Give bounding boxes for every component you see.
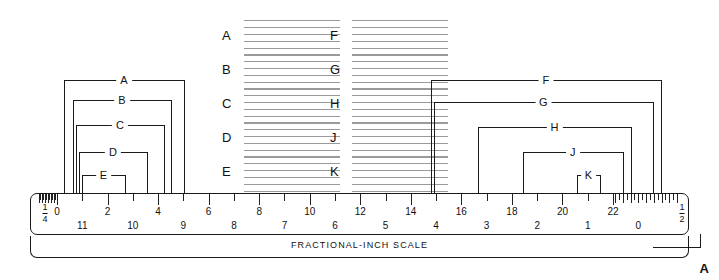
dimension-right-extension-right: [623, 152, 624, 193]
answer-left-letter-b: B: [222, 62, 231, 77]
dimension-right-extension-left: [577, 175, 578, 193]
dimension-left-extension-right: [125, 175, 126, 193]
ruler-tick-top: [512, 194, 513, 205]
answer-right-block: F: [330, 20, 450, 50]
dimension-right-extension-left: [434, 102, 435, 193]
ruler-number-top: 4: [155, 206, 161, 217]
figure-marker: A: [700, 261, 709, 276]
ruler-tick-fine: [623, 194, 624, 203]
ruler-number-bottom: 11: [77, 220, 87, 231]
ruler-number-bottom: 4: [433, 220, 439, 231]
answer-left-writing-lines[interactable]: [244, 156, 340, 198]
dimension-left-extension-left: [76, 125, 77, 193]
ruler-end-fraction-right: 12: [679, 203, 684, 224]
writing-line[interactable]: [244, 163, 340, 164]
ruler-tick-bottom: [588, 194, 589, 201]
writing-line[interactable]: [352, 68, 448, 69]
writing-line[interactable]: [352, 34, 448, 35]
writing-line[interactable]: [352, 75, 448, 76]
answer-left-block: B: [222, 54, 342, 84]
ruler-number-bottom: 9: [181, 220, 187, 231]
ruler-tick-fine: [654, 194, 655, 203]
dimension-left-label-b: B: [114, 95, 130, 105]
ruler-tick-top: [158, 194, 159, 205]
dimension-right-extension-right: [653, 102, 654, 193]
writing-line[interactable]: [244, 143, 340, 144]
answer-left-block: E: [222, 156, 342, 186]
ruler-tick-fine: [658, 194, 659, 200]
writing-line[interactable]: [244, 41, 340, 42]
writing-line[interactable]: [352, 61, 448, 62]
dimension-right-extension-right: [631, 127, 632, 193]
ruler-number-top: 18: [506, 206, 517, 217]
writing-line[interactable]: [244, 116, 340, 117]
ruler-tick-fine: [55, 194, 56, 200]
writing-line[interactable]: [244, 34, 340, 35]
answer-right-block: H: [330, 88, 450, 118]
writing-line[interactable]: [244, 102, 340, 103]
ruler-number-top: 20: [557, 206, 568, 217]
ruler-tick-fine: [646, 194, 647, 203]
dimension-right-label-h: H: [546, 122, 562, 132]
ruler-number-bottom: 1: [585, 220, 591, 231]
corner-rule-vertical: [700, 234, 701, 248]
ruler-title: FRACTIONAL-INCH SCALE: [31, 240, 688, 250]
writing-line[interactable]: [244, 156, 340, 157]
answer-left-block: C: [222, 88, 342, 118]
ruler-tick-fine: [615, 194, 616, 203]
ruler-tick-fine: [665, 194, 666, 200]
ruler-tick-bottom: [234, 194, 235, 201]
ruler-tick-bottom: [335, 194, 336, 201]
writing-line[interactable]: [244, 61, 340, 62]
corner-rule-horizontal: [653, 247, 701, 248]
writing-line[interactable]: [352, 20, 448, 21]
writing-line[interactable]: [244, 75, 340, 76]
writing-line[interactable]: [244, 27, 340, 28]
ruler-tick-top: [209, 194, 210, 205]
ruler-tick-fine: [677, 194, 678, 203]
writing-line[interactable]: [352, 95, 448, 96]
writing-line[interactable]: [352, 27, 448, 28]
writing-line[interactable]: [244, 68, 340, 69]
writing-line[interactable]: [244, 54, 340, 55]
ruler-number-bottom: 0: [635, 220, 641, 231]
answer-left-block: D: [222, 122, 342, 152]
writing-line[interactable]: [244, 95, 340, 96]
dimension-left-label-a: A: [116, 75, 132, 85]
dimension-left-extension-left: [82, 175, 83, 193]
answer-right-letter-g: G: [330, 62, 340, 77]
writing-line[interactable]: [244, 136, 340, 137]
ruler-number-bottom: 5: [383, 220, 389, 231]
dimension-left-extension-right: [171, 100, 172, 193]
dimension-left-extension-right: [147, 152, 148, 193]
answer-right-block: J: [330, 122, 450, 152]
writing-line[interactable]: [244, 129, 340, 130]
ruler-tick-fine: [634, 194, 635, 200]
dimension-left-label-d: D: [105, 147, 121, 157]
writing-line[interactable]: [244, 109, 340, 110]
ruler-tick-fine: [650, 194, 651, 200]
ruler-number-top: 10: [304, 206, 315, 217]
writing-line[interactable]: [352, 88, 448, 89]
writing-line[interactable]: [244, 48, 340, 49]
ruler-tick-bottom: [82, 194, 83, 201]
writing-line[interactable]: [244, 88, 340, 89]
writing-line[interactable]: [352, 54, 448, 55]
ruler-tick-top: [461, 194, 462, 205]
ruler-tick-fine: [638, 194, 639, 203]
writing-line[interactable]: [352, 48, 448, 49]
ruler-number-bottom: 2: [534, 220, 540, 231]
ruler-number-top: 2: [105, 206, 111, 217]
writing-line[interactable]: [244, 122, 340, 123]
ruler-tick-top: [259, 194, 260, 205]
writing-line[interactable]: [244, 20, 340, 21]
dimension-right-extension-left: [431, 80, 432, 193]
writing-line[interactable]: [244, 82, 340, 83]
writing-line[interactable]: [244, 170, 340, 171]
writing-line[interactable]: [244, 184, 340, 185]
writing-line[interactable]: [244, 150, 340, 151]
writing-line[interactable]: [244, 177, 340, 178]
writing-line[interactable]: [352, 82, 448, 83]
writing-line[interactable]: [352, 41, 448, 42]
writing-line[interactable]: [244, 191, 340, 192]
